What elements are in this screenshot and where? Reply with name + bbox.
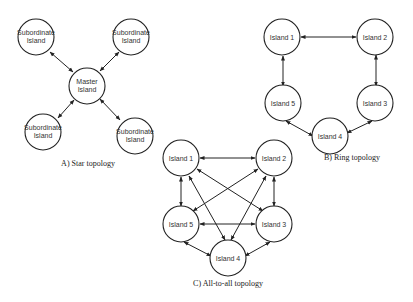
svg-text:Island: Island — [78, 86, 97, 93]
ring-topology: Island 1 Island 2 Island 3 Island 4 Isla… — [264, 19, 393, 162]
svg-text:Subordinate: Subordinate — [112, 29, 150, 36]
svg-text:Island 2: Island 2 — [363, 34, 388, 41]
svg-text:Island 4: Island 4 — [318, 133, 343, 140]
ring-island-2: Island 2 — [357, 19, 393, 55]
topology-diagrams: Master Island SubordinateIsland Subordin… — [0, 0, 413, 302]
svg-text:Island 2: Island 2 — [262, 155, 287, 162]
subordinate-island-node: SubordinateIsland — [116, 118, 154, 154]
svg-text:Island 3: Island 3 — [262, 221, 287, 228]
subordinate-island-node: SubordinateIsland — [112, 19, 150, 55]
subordinate-island-node: SubordinateIsland — [24, 114, 62, 150]
svg-text:Island: Island — [126, 136, 145, 143]
a2a-island-2: Island 2 — [256, 140, 292, 176]
svg-text:Island 1: Island 1 — [270, 34, 295, 41]
ring-island-3: Island 3 — [357, 85, 393, 121]
ring-caption: B) Ring topology — [324, 153, 380, 162]
ring-island-1: Island 1 — [264, 19, 300, 55]
a2a-island-4: Island 4 — [210, 240, 246, 276]
svg-text:Island: Island — [27, 37, 46, 44]
svg-text:Master: Master — [76, 78, 98, 85]
svg-text:Island 3: Island 3 — [363, 100, 388, 107]
svg-text:Subordinate: Subordinate — [24, 124, 62, 131]
subordinate-island-node: SubordinateIsland — [17, 19, 55, 55]
all-to-all-topology: Island 1 Island 2 Island 3 Island 4 Isla… — [163, 140, 292, 288]
star-topology: Master Island SubordinateIsland Subordin… — [17, 19, 154, 168]
a2a-island-3: Island 3 — [256, 206, 292, 242]
a2a-island-1: Island 1 — [163, 140, 199, 176]
a2a-island-5: Island 5 — [163, 206, 199, 242]
star-caption: A) Star topology — [61, 159, 115, 168]
svg-text:Island 5: Island 5 — [271, 100, 296, 107]
svg-text:Island 1: Island 1 — [169, 155, 194, 162]
svg-text:Island 4: Island 4 — [216, 255, 241, 262]
svg-text:Island: Island — [122, 37, 141, 44]
svg-text:Island 5: Island 5 — [169, 221, 194, 228]
master-island-node: Master Island — [69, 68, 105, 104]
all-to-all-caption: C) All-to-all topology — [193, 279, 263, 288]
svg-text:Subordinate: Subordinate — [17, 29, 55, 36]
ring-island-4: Island 4 — [312, 118, 348, 154]
svg-text:Island: Island — [34, 132, 53, 139]
ring-island-5: Island 5 — [265, 85, 301, 121]
svg-text:Subordinate: Subordinate — [116, 128, 154, 135]
